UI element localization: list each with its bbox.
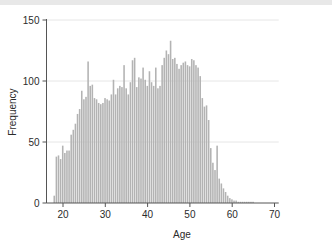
y-axis-ticks: 050100150 xyxy=(23,15,47,209)
histogram-bar xyxy=(197,68,199,203)
y-tick-label: 150 xyxy=(23,15,40,26)
histogram-bar xyxy=(161,65,163,203)
histogram-bar xyxy=(202,98,204,203)
histogram-bar xyxy=(64,153,66,203)
histogram-bar xyxy=(189,66,191,203)
histogram-bar xyxy=(187,65,189,203)
histogram-bar xyxy=(70,135,72,203)
histogram-figure: 050100150 203040506070 Frequency Age xyxy=(0,0,332,243)
histogram-bar xyxy=(212,163,214,203)
histogram-bar xyxy=(96,99,98,203)
histogram-bar xyxy=(231,199,233,203)
x-tick-label: 40 xyxy=(142,209,154,220)
histogram-bar xyxy=(149,71,151,203)
histogram-bar xyxy=(102,103,104,203)
histogram-bar xyxy=(142,68,144,203)
histogram-bar xyxy=(60,159,62,203)
histogram-bar xyxy=(140,79,142,203)
histogram-bar xyxy=(66,151,68,203)
histogram-bar xyxy=(153,86,155,203)
histogram-bar xyxy=(77,114,79,203)
histogram-bar xyxy=(79,109,81,203)
histogram-bar xyxy=(157,88,159,203)
histogram-bar xyxy=(121,87,123,203)
histogram-bar xyxy=(151,82,153,203)
histogram-bar xyxy=(170,41,172,203)
x-tick-label: 70 xyxy=(269,209,281,220)
y-tick-label: 50 xyxy=(28,137,40,148)
x-tick-label: 50 xyxy=(184,209,196,220)
histogram-bar xyxy=(147,86,149,203)
histogram-bar xyxy=(163,58,165,203)
histogram-bar xyxy=(208,120,210,203)
histogram-bar xyxy=(56,157,58,203)
histogram-bar xyxy=(108,101,110,203)
histogram-bar xyxy=(115,94,117,203)
histogram-bar xyxy=(98,103,100,203)
age-frequency-histogram: 050100150 203040506070 Frequency Age xyxy=(0,0,332,243)
histogram-bar xyxy=(204,107,206,203)
histogram-bar xyxy=(87,61,89,203)
histogram-bar xyxy=(172,59,174,203)
histogram-bar xyxy=(94,98,96,203)
histogram-bar xyxy=(75,124,77,203)
histogram-bar xyxy=(210,148,212,203)
histogram-bars xyxy=(53,41,253,203)
histogram-bar xyxy=(227,196,229,203)
histogram-bar xyxy=(58,155,60,203)
histogram-bar xyxy=(92,85,94,203)
histogram-bar xyxy=(206,105,208,203)
histogram-bar xyxy=(168,54,170,203)
histogram-bar xyxy=(216,146,218,203)
histogram-bar xyxy=(132,60,134,203)
histogram-bar xyxy=(195,65,197,203)
histogram-bar xyxy=(119,86,121,203)
histogram-bar xyxy=(89,86,91,203)
histogram-bar xyxy=(62,146,64,203)
histogram-bar xyxy=(134,58,136,203)
x-axis-title: Age xyxy=(173,229,191,240)
histogram-bar xyxy=(155,68,157,203)
histogram-bar xyxy=(176,64,178,203)
y-tick-label: 100 xyxy=(23,76,40,87)
y-axis-title: Frequency xyxy=(7,88,18,135)
y-tick-label: 0 xyxy=(34,198,40,209)
histogram-bar xyxy=(68,151,70,203)
histogram-bar xyxy=(83,99,85,203)
histogram-bar xyxy=(117,88,119,203)
histogram-bar xyxy=(183,63,185,203)
histogram-bar xyxy=(199,76,201,203)
histogram-bar xyxy=(111,94,113,203)
histogram-bar xyxy=(193,60,195,203)
histogram-bar xyxy=(138,77,140,203)
histogram-bar xyxy=(221,183,223,203)
histogram-bar xyxy=(123,65,125,203)
histogram-bar xyxy=(73,130,75,203)
histogram-bar xyxy=(174,58,176,203)
x-tick-label: 60 xyxy=(227,209,239,220)
histogram-bar xyxy=(166,51,168,204)
histogram-bar xyxy=(218,179,220,203)
histogram-bar xyxy=(144,80,146,203)
histogram-bar xyxy=(100,104,102,203)
histogram-bar xyxy=(178,69,180,203)
histogram-bar xyxy=(159,86,161,203)
x-tick-label: 30 xyxy=(100,209,112,220)
histogram-bar xyxy=(81,91,83,203)
histogram-bar xyxy=(113,80,115,203)
histogram-bar xyxy=(191,59,193,203)
histogram-bar xyxy=(136,87,138,203)
histogram-bar xyxy=(128,94,130,203)
histogram-bar xyxy=(223,188,225,203)
histogram-bar xyxy=(53,196,55,203)
histogram-bar xyxy=(130,82,132,203)
histogram-bar xyxy=(214,170,216,203)
histogram-bar xyxy=(85,97,87,203)
histogram-bar xyxy=(106,99,108,203)
histogram-bar xyxy=(180,65,182,203)
histogram-bar xyxy=(104,98,106,203)
histogram-bar xyxy=(225,192,227,203)
x-axis-ticks: 203040506070 xyxy=(57,203,280,220)
histogram-bar xyxy=(125,88,127,203)
histogram-bar xyxy=(229,198,231,203)
